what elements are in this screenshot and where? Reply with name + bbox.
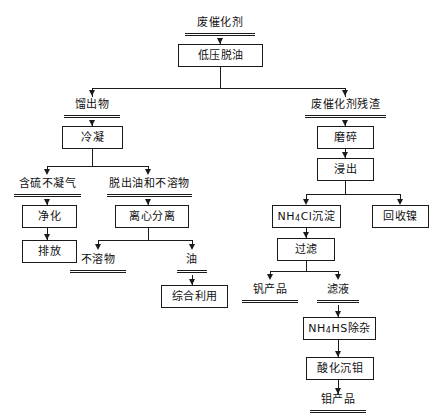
node-acidification-mo-precipitation: 酸化沉钼 bbox=[306, 357, 374, 380]
node-centrifugal-separation: 离心分离 bbox=[115, 205, 189, 228]
connector-centrifuge-down bbox=[148, 228, 149, 240]
label-distillate: 馏出物 bbox=[64, 99, 120, 116]
connector-condensation-split-bar bbox=[47, 166, 148, 167]
node-condensation-text: 冷凝 bbox=[81, 132, 104, 143]
connector-condensation-down bbox=[92, 149, 93, 166]
node-centrifugal-separation-text: 离心分离 bbox=[129, 211, 175, 222]
connector-leaching-down bbox=[345, 181, 346, 194]
node-filtration: 过滤 bbox=[277, 238, 335, 261]
label-vanadium-product-text: 钒产品 bbox=[253, 284, 288, 295]
node-nh4cl-precipitation-prefix: NH bbox=[278, 211, 296, 222]
node-purification: 净化 bbox=[22, 205, 77, 228]
connector-filtration-split-bar bbox=[270, 271, 338, 272]
label-molybdenum-product: 钼产品 bbox=[310, 394, 366, 411]
label-removed-oil-and-insolubles: 脱出油和不溶物 bbox=[107, 178, 192, 195]
node-leaching: 浸出 bbox=[317, 158, 374, 181]
node-comprehensive-utilization-text: 综合利用 bbox=[172, 291, 218, 302]
label-vanadium-product: 钒产品 bbox=[242, 284, 298, 301]
node-nickel-recovery-text: 回收镍 bbox=[383, 211, 418, 222]
node-discharge-text: 排放 bbox=[38, 246, 61, 257]
connector-leaching-split-bar bbox=[306, 194, 400, 195]
node-nh4hs-impurity-removal-suffix: HS除杂 bbox=[331, 323, 370, 334]
label-filtrate: 滤液 bbox=[317, 284, 359, 301]
node-comprehensive-utilization: 综合利用 bbox=[161, 285, 228, 308]
label-distillate-text: 馏出物 bbox=[75, 99, 110, 110]
label-spent-catalyst: 废催化剂 bbox=[185, 17, 255, 34]
label-filtrate-text: 滤液 bbox=[327, 284, 350, 295]
node-nh4hs-impurity-removal: NH4HS除杂 bbox=[303, 317, 376, 340]
flowchart-diagram: 废催化剂 低压脱油 馏出物 冷凝 含硫不凝气 脱出油和不溶物 净化 排放 bbox=[0, 0, 443, 419]
label-insolubles: 不溶物 bbox=[70, 254, 126, 271]
node-nh4cl-precipitation: NH4Cl沉淀 bbox=[272, 205, 341, 228]
connector-deoiling-down bbox=[220, 67, 221, 88]
node-nh4hs-impurity-removal-prefix: NH bbox=[308, 323, 326, 334]
label-spent-catalyst-residue: 废催化剂残渣 bbox=[305, 99, 386, 116]
arrowhead-to-insolubles bbox=[95, 244, 101, 250]
label-insolubles-text: 不溶物 bbox=[81, 254, 116, 265]
node-acidification-mo-precipitation-text: 酸化沉钼 bbox=[317, 363, 363, 374]
node-discharge: 排放 bbox=[22, 240, 77, 263]
arrowhead-to-sulfur-gas bbox=[44, 169, 50, 175]
node-nickel-recovery: 回收镍 bbox=[372, 205, 429, 228]
connector-centrifuge-split-bar bbox=[98, 240, 192, 241]
node-leaching-text: 浸出 bbox=[334, 164, 357, 175]
node-condensation: 冷凝 bbox=[62, 126, 123, 149]
label-oil: 油 bbox=[177, 254, 207, 271]
label-oil-text: 油 bbox=[186, 254, 198, 265]
node-low-pressure-deoiling: 低压脱油 bbox=[178, 44, 263, 67]
node-nh4cl-precipitation-subscript: 4 bbox=[295, 215, 301, 223]
arrowhead-to-distillate bbox=[89, 90, 95, 96]
node-low-pressure-deoiling-text: 低压脱油 bbox=[198, 50, 244, 61]
label-molybdenum-product-text: 钼产品 bbox=[321, 394, 356, 405]
arrowhead-to-residue bbox=[342, 90, 348, 96]
label-sulfur-noncondensable-gas: 含硫不凝气 bbox=[14, 178, 81, 195]
connector-main-split-bar bbox=[92, 88, 345, 89]
arrowhead-to-vanadium-product bbox=[267, 274, 273, 280]
node-grinding-text: 磨碎 bbox=[334, 132, 357, 143]
label-spent-catalyst-residue-text: 废催化剂残渣 bbox=[311, 99, 380, 110]
node-nh4cl-precipitation-suffix: Cl沉淀 bbox=[301, 211, 336, 222]
arrowhead-to-removed-oil bbox=[145, 169, 151, 175]
label-sulfur-noncondensable-gas-text: 含硫不凝气 bbox=[19, 178, 77, 189]
node-nh4hs-impurity-removal-subscript: 4 bbox=[326, 327, 332, 335]
label-removed-oil-and-insolubles-text: 脱出油和不溶物 bbox=[109, 178, 190, 189]
node-filtration-text: 过滤 bbox=[295, 244, 318, 255]
arrowhead-to-filtrate bbox=[335, 274, 341, 280]
node-grinding: 磨碎 bbox=[317, 126, 374, 149]
node-purification-text: 净化 bbox=[38, 211, 61, 222]
label-spent-catalyst-text: 废催化剂 bbox=[197, 17, 243, 28]
connector-filtration-down bbox=[306, 261, 307, 271]
arrowhead-to-oil bbox=[189, 244, 195, 250]
